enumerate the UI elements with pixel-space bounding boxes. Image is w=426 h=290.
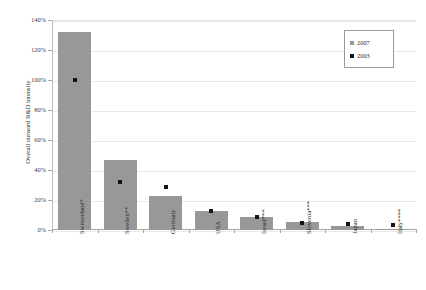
x-axis-tick-mark [143,229,144,233]
marker-sweden [118,180,122,184]
marker-israel [255,215,259,219]
bar-israel [240,217,273,231]
x-axis-label-japan: Japan [351,219,358,234]
x-axis-label-slovenia: Slovenia*** [305,201,312,234]
marker-germany [164,185,168,189]
x-axis-label-germany: Germany [169,210,176,234]
x-axis-label-italy: Italy**** [396,209,403,234]
x-axis-tick-mark [189,229,190,233]
x-axis-label-israel: Israel*** [260,209,267,234]
marker-switzerland [73,78,77,82]
bar-usa [195,211,228,231]
legend-label-2003: 2003 [357,52,370,59]
bar-japan [331,226,364,231]
legend-item-2003: 2003 [350,49,393,62]
bar-switzerland [58,32,91,230]
legend-swatch-2007 [350,41,354,45]
x-axis-label-sweden: Sweden** [123,207,130,234]
x-axis-label-switzerland: Switzerland* [78,199,85,234]
legend-swatch-2003 [350,54,354,58]
marker-italy [391,223,395,227]
legend-item-2007: 2007 [350,36,393,49]
x-axis-tick-mark [234,229,235,233]
x-axis-tick-mark [52,229,53,233]
bar-germany [149,196,182,231]
x-axis-label-usa: USA [214,221,221,234]
bar-italy [377,229,410,230]
marker-slovenia [300,221,304,225]
bar-sweden [104,160,137,231]
chart-container: 140%120%100%80%60%40%20%0% Overall outwa… [0,0,426,290]
x-axis-tick-mark [98,229,99,233]
chart-legend: 20072003 [344,30,394,68]
legend-label-2007: 2007 [357,39,370,46]
x-axis-tick-mark [416,229,417,233]
x-axis-tick-mark [325,229,326,233]
marker-usa [209,209,213,213]
marker-japan [346,222,350,226]
x-axis-tick-mark [280,229,281,233]
x-axis-tick-mark [371,229,372,233]
